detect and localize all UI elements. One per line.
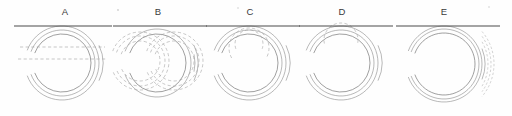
scan-speck xyxy=(237,7,239,9)
panel-label-e: E xyxy=(441,6,448,17)
contour-ring xyxy=(218,30,282,96)
panel-a: A xyxy=(14,6,112,100)
panel-e: E xyxy=(396,6,500,102)
contour-ring xyxy=(214,26,286,100)
contour-ring xyxy=(408,26,482,102)
contour-ring xyxy=(27,26,99,100)
panel-label-d: D xyxy=(338,6,345,17)
scan-speck xyxy=(488,6,490,8)
contour-ring xyxy=(35,34,91,92)
contour-ring xyxy=(130,34,186,92)
contour-ring xyxy=(378,45,382,80)
contour-ring-dashed xyxy=(482,36,491,91)
figure-board: ABCDE xyxy=(0,0,512,116)
panel-label-b: B xyxy=(155,6,162,17)
contour-ring xyxy=(310,30,374,96)
contour-ring xyxy=(222,34,278,92)
contour-diagram: ABCDE xyxy=(0,0,512,116)
contour-ring xyxy=(314,34,370,92)
contour-ring xyxy=(415,33,475,95)
contour-ring xyxy=(125,29,191,97)
contour-ring xyxy=(482,49,485,80)
panel-c: C xyxy=(206,6,300,100)
contour-split-arc xyxy=(151,36,199,86)
contour-split-arc xyxy=(147,32,203,90)
scan-speck xyxy=(117,9,119,11)
panel-label-c: C xyxy=(246,6,253,17)
panel-label-a: A xyxy=(62,6,69,17)
contour-split-arc xyxy=(117,36,165,86)
contour-split-arc xyxy=(113,32,169,90)
contour-ring xyxy=(411,29,479,99)
contour-ring xyxy=(306,26,378,100)
contour-ring xyxy=(31,30,95,96)
panel-d: D xyxy=(299,6,393,100)
contour-ring xyxy=(286,45,290,80)
panel-b: B xyxy=(113,6,207,97)
inner-dashed-arc xyxy=(235,30,263,49)
contour-ring xyxy=(99,45,103,80)
